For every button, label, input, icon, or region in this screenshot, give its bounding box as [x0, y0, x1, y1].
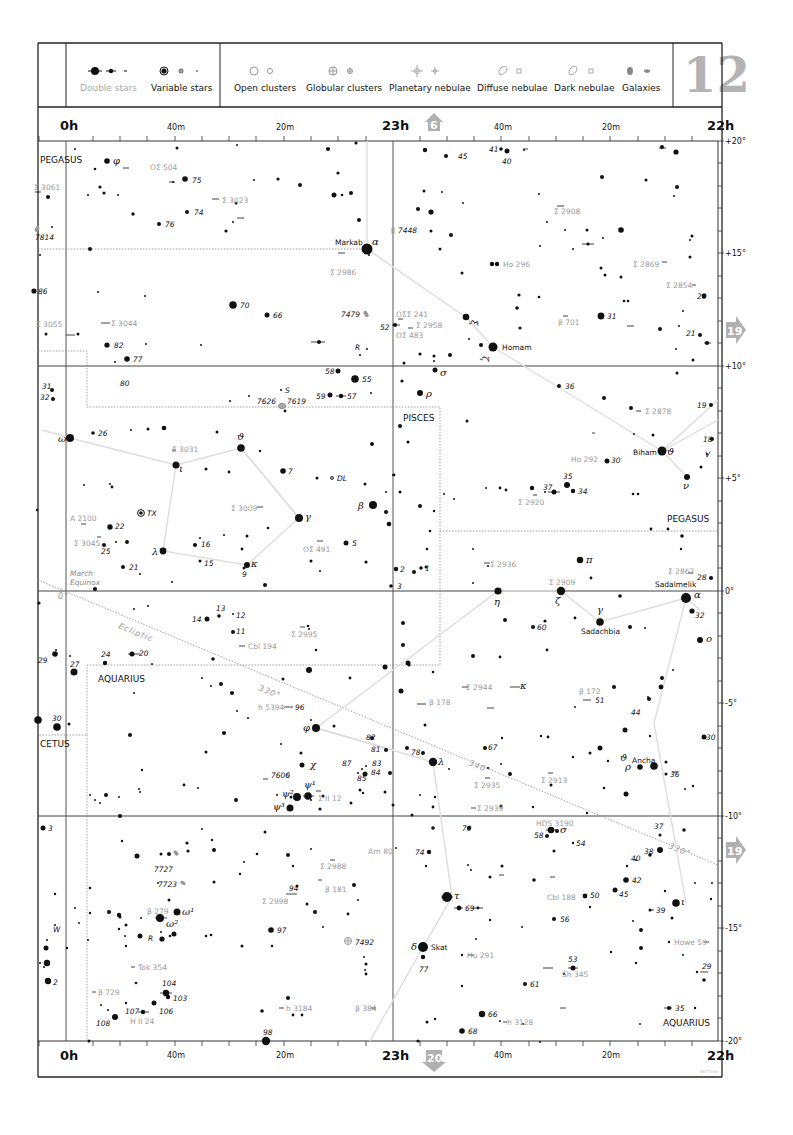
svg-text:19: 19 — [697, 401, 707, 410]
star-skat — [418, 942, 428, 952]
svg-text:42: 42 — [632, 876, 642, 885]
svg-text:24: 24 — [101, 650, 111, 659]
svg-text:26: 26 — [98, 429, 108, 438]
star-biham — [658, 447, 667, 456]
svg-text:16: 16 — [201, 540, 211, 549]
nav-arrow-right-lower[interactable]: 19 — [726, 836, 746, 864]
svg-text:β: β — [357, 500, 364, 511]
svg-text:94: 94 — [289, 884, 299, 893]
svg-text:Σ 2909: Σ 2909 — [549, 578, 575, 587]
svg-text:β 181: β 181 — [325, 885, 347, 894]
svg-text:13: 13 — [216, 604, 226, 613]
svg-text:36: 36 — [565, 382, 575, 391]
legend-bar: Double stars Variable stars Open cluster… — [38, 43, 750, 107]
galaxy-7479-icon — [363, 310, 370, 318]
svg-text:Σ 2854: Σ 2854 — [666, 281, 692, 290]
ecliptic-line: Ecliptic 330° 340° 0° 330° March Equinox — [38, 569, 718, 865]
planetary-nebulae-icon — [411, 65, 439, 77]
svg-text:γ: γ — [597, 604, 603, 615]
svg-text:31: 31 — [607, 312, 617, 321]
svg-text:β 701: β 701 — [558, 318, 580, 327]
svg-text:ζ: ζ — [480, 356, 491, 362]
svg-text:ω¹: ω¹ — [182, 906, 194, 917]
legend-double-stars: Double stars — [80, 83, 137, 93]
svg-text:56: 56 — [560, 915, 570, 924]
svg-text:84: 84 — [371, 768, 381, 777]
svg-text:Σ 2908: Σ 2908 — [554, 207, 580, 216]
svg-text:20m: 20m — [602, 123, 620, 132]
svg-text:7492: 7492 — [355, 938, 374, 947]
svg-text:1: 1 — [425, 564, 430, 573]
svg-text:β 172: β 172 — [579, 687, 601, 696]
svg-text:R: R — [148, 934, 153, 943]
svg-text:+15°: +15° — [725, 249, 746, 258]
legend-variable-stars: Variable stars — [151, 83, 213, 93]
svg-text:51: 51 — [595, 696, 605, 705]
constellation-pegasus: PEGASUS — [40, 155, 83, 165]
constellation-aquarius-bottom: AQUARIUS — [663, 1018, 710, 1028]
svg-text:330°: 330° — [257, 684, 282, 701]
svg-text:α: α — [372, 236, 379, 247]
svg-text:40m: 40m — [494, 123, 512, 132]
ra-labels-bottom: 0h 40m 20m 23h 40m 20m 22h — [60, 1048, 734, 1063]
nav-arrow-right-upper[interactable]: 19 — [726, 316, 746, 344]
svg-text:Σ 3061: Σ 3061 — [34, 183, 60, 192]
svg-text:Σ 2935: Σ 2935 — [474, 781, 500, 790]
svg-text:ρ: ρ — [425, 388, 432, 399]
svg-text:Tok 354: Tok 354 — [137, 963, 167, 972]
nav-arrow-top[interactable]: 6 — [425, 113, 443, 132]
svg-text:β 178: β 178 — [429, 698, 451, 707]
svg-text:φ: φ — [303, 722, 310, 733]
svg-text:45: 45 — [458, 152, 468, 161]
svg-text:-15°: -15° — [725, 924, 742, 933]
nav-arrow-bottom[interactable]: 20 — [422, 1050, 446, 1072]
svg-text:-5°: -5° — [725, 699, 737, 708]
svg-text:Σ II 12: Σ II 12 — [318, 794, 342, 803]
svg-text:λ: λ — [437, 756, 444, 767]
svg-text:75: 75 — [192, 176, 202, 185]
svg-text:19: 19 — [727, 845, 742, 858]
galaxy-7626-icon — [279, 403, 286, 408]
svg-text:7814: 7814 — [35, 233, 54, 242]
svg-text:7727: 7727 — [154, 865, 173, 874]
svg-text:98: 98 — [263, 1028, 273, 1037]
svg-text:ψ³: ψ³ — [273, 801, 285, 812]
svg-text:π: π — [585, 554, 593, 565]
grid — [38, 141, 718, 1041]
svg-text:104: 104 — [162, 979, 177, 988]
svg-text:φ: φ — [113, 155, 120, 166]
svg-text:Σ 3023: Σ 3023 — [222, 196, 248, 205]
svg-text:5: 5 — [352, 539, 357, 548]
svg-text:7448: 7448 — [398, 226, 417, 235]
svg-text:18: 18 — [703, 435, 713, 444]
svg-text:80: 80 — [120, 379, 130, 388]
svg-text:74: 74 — [194, 208, 204, 217]
svg-text:A 2100: A 2100 — [70, 514, 97, 523]
svg-text:Arn 80: Arn 80 — [368, 847, 393, 856]
svg-text:TX: TX — [147, 509, 158, 518]
credit: Wil Tirion — [700, 1069, 719, 1074]
ra-labels-top: 0h 40m 20m 23h 40m 20m 22h — [60, 118, 734, 133]
svg-text:32: 32 — [695, 611, 705, 620]
svg-text:70: 70 — [240, 301, 250, 310]
star-iota — [672, 899, 680, 907]
legend-planetary-nebulae: Planetary nebulae — [389, 83, 471, 93]
svg-text:29: 29 — [702, 962, 712, 971]
svg-text:Equinox: Equinox — [70, 578, 101, 587]
svg-text:15: 15 — [204, 559, 214, 568]
svg-text:25: 25 — [101, 547, 111, 556]
svg-text:67: 67 — [488, 743, 498, 752]
svg-text:85: 85 — [357, 774, 367, 783]
svg-text:2: 2 — [400, 565, 405, 574]
svg-text:20m: 20m — [276, 123, 294, 132]
svg-text:30: 30 — [706, 733, 716, 742]
svg-text:7626: 7626 — [257, 397, 276, 406]
svg-text:V: V — [705, 450, 711, 459]
svg-text:7723: 7723 — [158, 880, 177, 889]
double-star-bars — [35, 148, 711, 1022]
svg-text:ο: ο — [706, 633, 712, 644]
label-skat: Skat — [431, 943, 448, 952]
globular-cluster-7492-icon — [345, 938, 352, 945]
svg-text:69: 69 — [465, 904, 475, 913]
svg-text:DL: DL — [337, 474, 347, 483]
